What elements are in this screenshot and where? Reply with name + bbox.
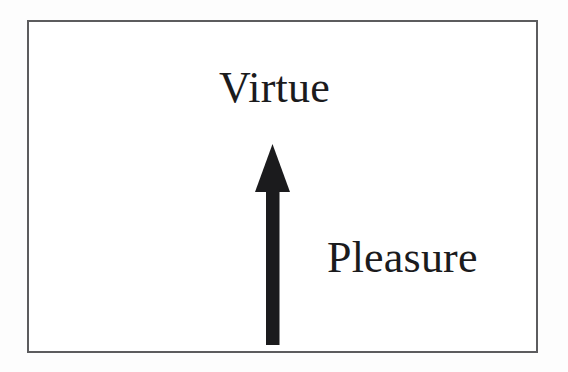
- figure-canvas: Virtue Pleasure: [0, 0, 568, 372]
- upward-arrow-icon: [251, 142, 295, 347]
- label-virtue: Virtue: [219, 66, 330, 110]
- label-pleasure: Pleasure: [327, 236, 478, 280]
- figure-border-frame: Virtue Pleasure: [27, 20, 538, 353]
